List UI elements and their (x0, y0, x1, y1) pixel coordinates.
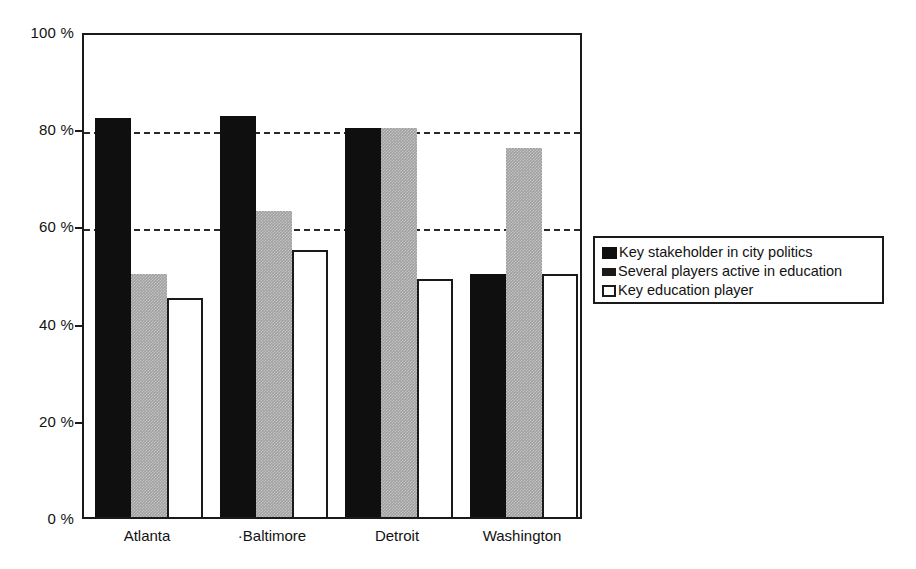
legend-swatch-icon (602, 285, 616, 297)
legend-item: Key stakeholder in city politics (602, 243, 882, 262)
y-axis-tick-label: 20 % (6, 414, 74, 429)
y-axis-tickmark (75, 130, 82, 132)
bar (220, 116, 256, 517)
legend-item-label: Key stakeholder in city politics (619, 244, 812, 261)
y-axis-tickmark (75, 422, 82, 424)
y-axis-tick-label: 60 % (6, 219, 74, 234)
bars-layer (84, 35, 580, 517)
x-axis-tick-label: Atlanta (87, 527, 207, 545)
plot-area (82, 33, 582, 519)
bar (542, 274, 578, 517)
x-axis-tick-label: ·Baltimore (212, 527, 332, 545)
bar (167, 298, 203, 517)
bar (345, 128, 381, 517)
legend-item: Key education player (602, 281, 882, 300)
plot-inner (84, 35, 580, 517)
legend-item: Several players active in education (602, 262, 882, 281)
legend: Key stakeholder in city politicsSeveral … (593, 236, 884, 304)
y-axis-labels: 0 %20 %40 %60 %80 %100 % (2, 0, 74, 569)
bar (292, 250, 328, 517)
legend-item-label: Several players active in education (618, 263, 842, 280)
legend-swatch-icon (602, 247, 617, 259)
bar (256, 211, 292, 517)
bar (131, 274, 167, 517)
bar (95, 118, 131, 517)
bar-chart: 0 %20 %40 %60 %80 %100 % Atlanta·Baltimo… (0, 0, 916, 569)
bar (417, 279, 453, 517)
y-axis-tick-label: 80 % (6, 122, 74, 137)
legend-item-label: Key education player (618, 282, 753, 299)
bar (506, 148, 542, 517)
y-axis-tick-label: 40 % (6, 317, 74, 332)
x-axis-tick-label: Washington (462, 527, 582, 545)
legend-swatch-icon (602, 268, 616, 276)
y-axis-tick-label: 100 % (6, 25, 74, 40)
bar (470, 274, 506, 517)
x-axis-labels: Atlanta·BaltimoreDetroitWashington (82, 527, 582, 557)
y-axis-tick-label: 0 % (6, 511, 74, 526)
bar (381, 128, 417, 517)
x-axis-tick-label: Detroit (337, 527, 457, 545)
y-axis-tickmark (75, 227, 82, 229)
y-axis-tickmark (75, 325, 82, 327)
